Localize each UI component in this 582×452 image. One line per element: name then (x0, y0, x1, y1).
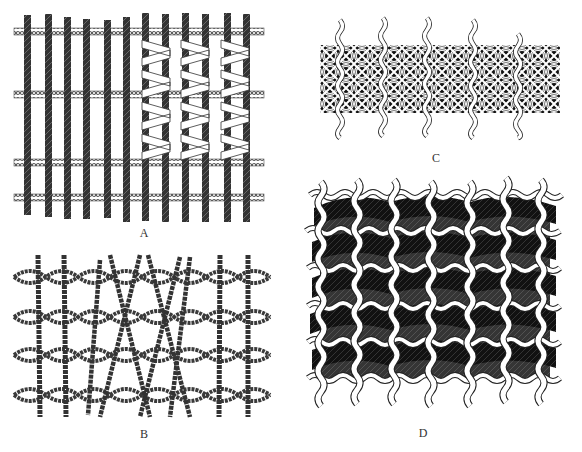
wrapped-sections (142, 40, 249, 160)
panel-a: A (0, 0, 290, 245)
panel-b-illustration (0, 245, 290, 430)
panel-d-illustration (290, 170, 582, 425)
panel-c: C (290, 0, 582, 170)
panel-c-label: C (426, 151, 446, 166)
panel-b: B (0, 245, 290, 445)
panel-a-illustration (0, 0, 290, 230)
figure-caption-cutoff (0, 446, 582, 452)
panel-a-label: A (134, 226, 154, 241)
panel-d: D (290, 170, 582, 445)
panel-c-illustration (290, 0, 582, 145)
mesh-body (320, 45, 560, 113)
warps (24, 13, 250, 222)
panel-b-label: B (134, 427, 154, 442)
panel-d-label: D (413, 426, 433, 441)
